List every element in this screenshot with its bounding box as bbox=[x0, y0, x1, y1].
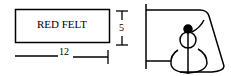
width-dimension-label: 12 bbox=[59, 47, 69, 57]
cone-outline bbox=[146, 4, 224, 72]
height-dimension-label: 5 bbox=[119, 23, 124, 33]
snowman-icon bbox=[171, 20, 207, 74]
diagram-canvas bbox=[0, 0, 231, 76]
felt-label: RED FELT bbox=[37, 19, 87, 30]
